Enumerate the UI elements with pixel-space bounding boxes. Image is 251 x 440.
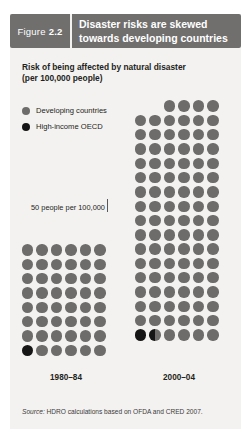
dot-developing [164, 186, 175, 197]
dot-developing [36, 259, 47, 270]
dot-developing [178, 172, 189, 183]
dot-developing [178, 115, 189, 126]
dot-developing [164, 201, 175, 212]
dot-developing [207, 143, 218, 154]
dot-developing [178, 286, 189, 297]
chart-legend: Developing countries High-income OECD [22, 104, 107, 136]
dot-developing [164, 229, 175, 240]
dot-empty [149, 100, 160, 111]
dot-developing [65, 287, 76, 298]
dot-row [135, 142, 222, 156]
dot-row [135, 299, 222, 313]
dot-developing [80, 273, 91, 284]
dot-developing [149, 315, 160, 326]
dot-developing [135, 115, 146, 126]
source-text: HDRO calculations based on OFDA and CRED… [47, 408, 203, 415]
dot-developing [149, 258, 160, 269]
dot-oecd [135, 329, 146, 340]
axis-label-1980-84: 1980–84 [22, 373, 110, 382]
dot-developing [36, 302, 47, 313]
dot-developing [178, 100, 189, 111]
dot-developing [65, 330, 76, 341]
dot-developing [178, 186, 189, 197]
dot-developing [193, 172, 204, 183]
dot-developing [51, 345, 62, 356]
dot-developing [22, 287, 33, 298]
dot-developing [164, 301, 175, 312]
dot-row [135, 242, 222, 256]
dot-developing [207, 315, 218, 326]
dot-developing [135, 215, 146, 226]
dot-developing [22, 244, 33, 255]
dot-row [135, 113, 222, 127]
dot-developing [178, 315, 189, 326]
dot-developing [178, 329, 189, 340]
dot-developing [135, 258, 146, 269]
dot-developing [207, 243, 218, 254]
dot-developing [149, 243, 160, 254]
figure-tag-number: 2.2 [49, 26, 63, 37]
dot-developing [178, 243, 189, 254]
dot-developing [65, 244, 76, 255]
dot-developing [94, 316, 105, 327]
dot-developing [94, 330, 105, 341]
legend-dot-icon-oecd [22, 123, 30, 131]
dot-developing [149, 172, 160, 183]
dot-developing [193, 286, 204, 297]
dot-developing [178, 201, 189, 212]
dot-developing [207, 215, 218, 226]
dot-developing [135, 229, 146, 240]
figure-subtitle-line-1: Risk of being affected by natural disast… [22, 62, 227, 73]
dot-developing [207, 301, 218, 312]
figure-subtitle-line-2: (per 100,000 people) [22, 73, 227, 84]
figure-header: Figure 2.2 Disaster risks are skewed tow… [10, 14, 241, 48]
dot-developing [65, 316, 76, 327]
source-prefix: Source: [22, 408, 45, 415]
axis-label-2000-04: 2000–04 [135, 373, 223, 382]
dot-empty [135, 100, 146, 111]
dot-developing [193, 201, 204, 212]
dot-developing [94, 259, 105, 270]
dot-developing [178, 272, 189, 283]
figure-source: Source: HDRO calculations based on OFDA … [22, 408, 232, 415]
figure-container: Figure 2.2 Disaster risks are skewed tow… [0, 0, 251, 440]
dot-developing [36, 244, 47, 255]
dot-developing [135, 272, 146, 283]
dot-developing [164, 115, 175, 126]
unit-annotation-label: 50 people per 100,000 [31, 203, 105, 212]
dot-developing [149, 129, 160, 140]
dot-developing [149, 215, 160, 226]
dot-row [135, 185, 222, 199]
dot-developing [149, 143, 160, 154]
dot-developing [193, 100, 204, 111]
dot-row [135, 313, 222, 327]
dot-row [135, 99, 222, 113]
dot-row [135, 213, 222, 227]
dot-developing [36, 287, 47, 298]
dot-developing [94, 273, 105, 284]
dot-developing [193, 158, 204, 169]
dot-row [135, 199, 222, 213]
dot-developing [207, 258, 218, 269]
dot-developing [135, 301, 146, 312]
dot-row [135, 285, 222, 299]
dot-developing [193, 315, 204, 326]
dot-developing [94, 244, 105, 255]
dot-developing [51, 244, 62, 255]
dot-developing [207, 115, 218, 126]
dot-developing [149, 301, 160, 312]
dot-developing [164, 158, 175, 169]
dot-developing [207, 158, 218, 169]
dot-developing [80, 302, 91, 313]
dot-developing [164, 172, 175, 183]
dot-developing [193, 186, 204, 197]
dot-row [135, 271, 222, 285]
dot-developing [149, 272, 160, 283]
dot-developing [149, 158, 160, 169]
dot-oecd [22, 345, 33, 356]
dot-developing [164, 129, 175, 140]
dot-row [22, 286, 109, 300]
dot-developing [178, 129, 189, 140]
legend-label-oecd: High-income OECD [36, 122, 103, 131]
dot-developing [193, 143, 204, 154]
